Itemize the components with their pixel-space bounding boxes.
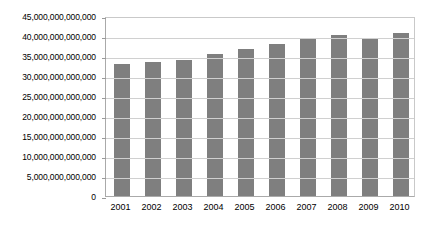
bar[interactable] xyxy=(238,49,254,196)
y-axis-tick-mark xyxy=(102,198,106,199)
gridline xyxy=(106,98,414,99)
gridline xyxy=(106,118,414,119)
x-axis-tick-label: 2004 xyxy=(203,202,223,212)
y-axis-tick-label: 5,000,000,000,000 xyxy=(27,172,96,182)
y-axis-tick-mark xyxy=(102,18,106,19)
bar[interactable] xyxy=(145,62,161,196)
y-axis-tick-mark xyxy=(102,118,106,119)
y-axis-tick-label: 30,000,000,000,000 xyxy=(22,72,96,82)
bar-chart: 05,000,000,000,00010,000,000,000,00015,0… xyxy=(0,0,425,230)
x-axis-tick-label: 2010 xyxy=(389,202,409,212)
x-axis-tick-label: 2005 xyxy=(234,202,254,212)
gridline xyxy=(106,158,414,159)
gridline xyxy=(106,178,414,179)
x-axis-tick-label: 2007 xyxy=(296,202,316,212)
bar[interactable] xyxy=(176,60,192,196)
y-axis-tick-label: 10,000,000,000,000 xyxy=(22,152,96,162)
y-axis: 05,000,000,000,00010,000,000,000,00015,0… xyxy=(0,0,100,230)
y-axis-tick-mark xyxy=(102,38,106,39)
x-axis-tick-label: 2006 xyxy=(265,202,285,212)
gridline xyxy=(106,38,414,39)
y-axis-tick-mark xyxy=(102,98,106,99)
y-axis-tick-mark xyxy=(102,58,106,59)
y-axis-tick-label: 25,000,000,000,000 xyxy=(22,92,96,102)
y-axis-tick-label: 45,000,000,000,000 xyxy=(22,12,96,22)
y-axis-tick-label: 40,000,000,000,000 xyxy=(22,32,96,42)
bar[interactable] xyxy=(114,64,130,196)
plot-area xyxy=(105,17,415,197)
y-axis-tick-mark xyxy=(102,158,106,159)
x-axis-tick-label: 2008 xyxy=(327,202,347,212)
y-axis-tick-mark xyxy=(102,138,106,139)
y-axis-tick-label: 35,000,000,000,000 xyxy=(22,52,96,62)
gridline xyxy=(106,78,414,79)
bars-layer xyxy=(106,18,414,196)
x-axis-tick-label: 2003 xyxy=(172,202,192,212)
x-axis-tick-label: 2001 xyxy=(110,202,130,212)
gridline xyxy=(106,138,414,139)
bar[interactable] xyxy=(269,44,285,196)
bar[interactable] xyxy=(331,35,347,196)
y-axis-tick-label: 15,000,000,000,000 xyxy=(22,132,96,142)
y-axis-tick-mark xyxy=(102,178,106,179)
bar[interactable] xyxy=(207,54,223,196)
y-axis-tick-label: 20,000,000,000,000 xyxy=(22,112,96,122)
x-axis-tick-label: 2002 xyxy=(141,202,161,212)
x-axis-tick-label: 2009 xyxy=(358,202,378,212)
y-axis-tick-mark xyxy=(102,78,106,79)
gridline xyxy=(106,58,414,59)
x-axis: 2001200220032004200520062007200820092010 xyxy=(105,202,415,222)
y-axis-tick-label: 0 xyxy=(91,192,96,202)
